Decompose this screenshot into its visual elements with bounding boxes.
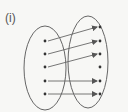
codomain-point (99, 53, 102, 56)
codomain-point (99, 93, 102, 96)
mapping-arrow (48, 27, 97, 41)
codomain-point (99, 40, 102, 43)
domain-point (44, 66, 47, 69)
domain-point (44, 80, 47, 83)
domain-point (44, 93, 47, 96)
codomain-point (99, 26, 102, 29)
codomain-point (99, 80, 102, 83)
mapping-arrow (48, 54, 97, 67)
mapping-arrow (48, 41, 97, 54)
mapping-diagram (0, 0, 128, 112)
domain-point (44, 53, 47, 56)
codomain-point (99, 66, 102, 69)
domain-point (44, 40, 47, 43)
